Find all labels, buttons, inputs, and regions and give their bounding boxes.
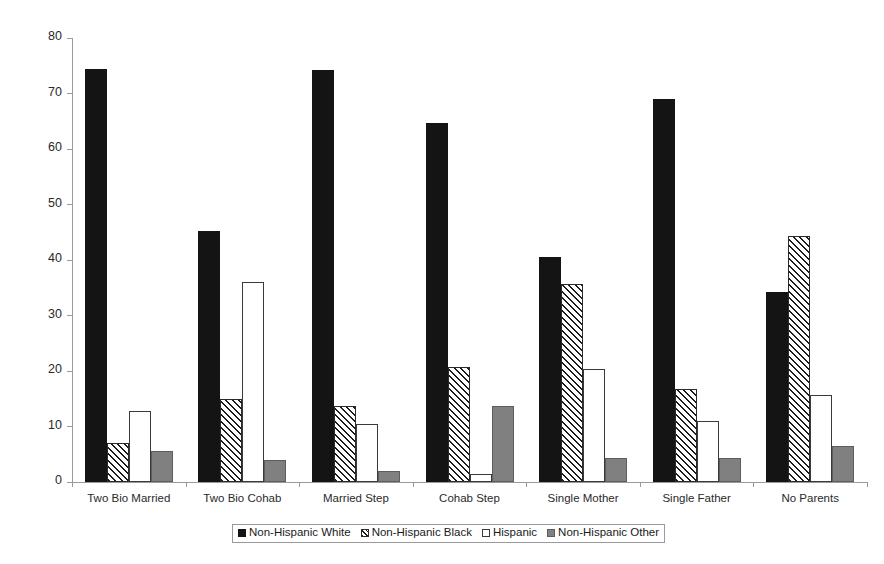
bar (378, 471, 400, 482)
x-tick-mark (72, 482, 73, 487)
bar (719, 458, 741, 482)
bar (788, 236, 810, 482)
bar (107, 443, 129, 482)
y-tick-label: 40 (48, 252, 62, 265)
bar-group (426, 38, 514, 482)
x-tick-mark (299, 482, 300, 487)
x-axis-label: Two Bio Cohab (186, 492, 300, 505)
bar (242, 282, 264, 482)
bar (356, 424, 378, 482)
bar (492, 406, 514, 482)
bar (561, 284, 583, 482)
bar (312, 70, 334, 482)
y-tick-label: 50 (48, 197, 62, 210)
legend-swatch-icon (238, 529, 246, 537)
bar (129, 411, 151, 482)
x-tick-mark (413, 482, 414, 487)
plot-area (72, 38, 867, 482)
bar (697, 421, 719, 482)
bar (810, 395, 832, 482)
bar-group (766, 38, 854, 482)
y-tick-label: 70 (48, 86, 62, 99)
bar (605, 458, 627, 482)
bar (426, 123, 448, 482)
y-tick-label: 0 (55, 474, 62, 487)
x-tick-mark (526, 482, 527, 487)
bar (85, 69, 107, 482)
y-tick-label: 20 (48, 363, 62, 376)
legend-item: Non-Hispanic White (238, 527, 351, 539)
x-axis-line (72, 482, 867, 483)
bar (220, 399, 242, 482)
bar-group (85, 38, 173, 482)
x-axis-label: No Parents (753, 492, 867, 505)
bar-group (312, 38, 400, 482)
bar (448, 367, 470, 482)
bar (539, 257, 561, 482)
legend-label: Non-Hispanic White (249, 527, 351, 539)
x-axis-label: Single Mother (526, 492, 640, 505)
bar (470, 474, 492, 482)
bar (264, 460, 286, 482)
bar (198, 231, 220, 482)
x-tick-mark (867, 482, 868, 487)
legend-item: Non-Hispanic Other (547, 527, 659, 539)
y-tick-label: 60 (48, 141, 62, 154)
bar (832, 446, 854, 482)
bar-group (198, 38, 286, 482)
x-axis-label: Married Step (299, 492, 413, 505)
legend-item: Non-Hispanic Black (361, 527, 472, 539)
bar (151, 451, 173, 482)
x-axis-label: Two Bio Married (72, 492, 186, 505)
y-tick-label: 10 (48, 419, 62, 432)
legend-label: Non-Hispanic Other (558, 527, 659, 539)
bar (583, 369, 605, 482)
legend-swatch-icon (482, 529, 490, 537)
x-tick-mark (186, 482, 187, 487)
bar-group (539, 38, 627, 482)
bar (675, 389, 697, 482)
bar (766, 292, 788, 482)
x-axis-label: Cohab Step (413, 492, 527, 505)
x-tick-mark (640, 482, 641, 487)
chart-legend: Non-Hispanic WhiteNon-Hispanic BlackHisp… (232, 524, 665, 543)
legend-item: Hispanic (482, 527, 537, 539)
x-tick-mark (753, 482, 754, 487)
legend-swatch-icon (547, 529, 555, 537)
y-tick-label: 30 (48, 308, 62, 321)
legend-swatch-icon (361, 529, 369, 537)
x-axis-label: Single Father (640, 492, 754, 505)
legend-label: Non-Hispanic Black (372, 527, 472, 539)
y-tick-label: 80 (48, 30, 62, 43)
bar (334, 406, 356, 482)
legend-label: Hispanic (493, 527, 537, 539)
bar (653, 99, 675, 482)
grouped-bar-chart: 01020304050607080 Two Bio MarriedTwo Bio… (0, 0, 884, 564)
bar-group (653, 38, 741, 482)
